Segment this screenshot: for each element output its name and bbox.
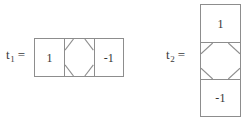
t1-cell-middle bbox=[64, 39, 93, 76]
t2-equals-sign: = bbox=[175, 47, 185, 62]
t1-cell-left-value: 1 bbox=[47, 52, 53, 64]
t2-tile-grid: 1 -1 bbox=[200, 4, 241, 117]
t1-label: t1= bbox=[6, 48, 25, 64]
t2-cell-middle bbox=[201, 42, 240, 79]
tile-figure: t1= 1 -1 t2= 1 bbox=[0, 0, 246, 121]
t1-tile-grid: 1 -1 bbox=[34, 38, 124, 77]
octagon-shape-icon bbox=[65, 39, 93, 76]
t1-cell-right: -1 bbox=[94, 39, 123, 76]
t2-cell-top-value: 1 bbox=[217, 18, 223, 30]
t2-label: t2= bbox=[166, 48, 185, 64]
t2-cell-bottom-value: -1 bbox=[215, 92, 225, 104]
t1-equals-sign: = bbox=[15, 47, 25, 62]
t1-cell-left: 1 bbox=[35, 39, 64, 76]
t1-cell-right-value: -1 bbox=[104, 52, 114, 64]
t2-cell-bottom: -1 bbox=[201, 79, 240, 116]
t1-subscript: 1 bbox=[10, 54, 15, 64]
t2-cell-top: 1 bbox=[201, 5, 240, 42]
t2-subscript: 2 bbox=[170, 54, 175, 64]
octagon-shape-icon bbox=[201, 43, 240, 79]
